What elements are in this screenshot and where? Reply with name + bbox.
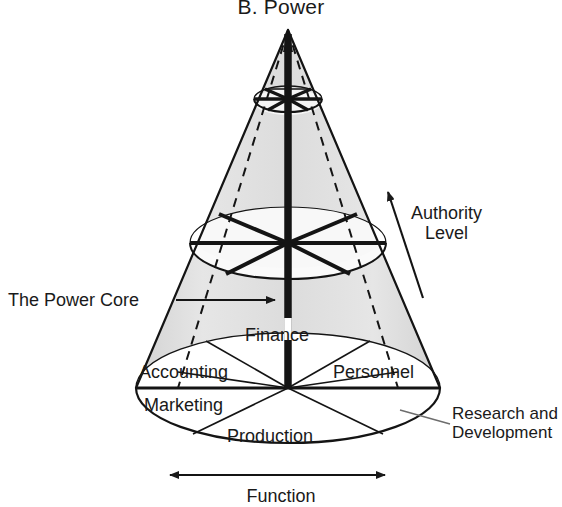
rnd-line-2: Development	[452, 423, 558, 442]
sector-label-personnel: Personnel	[333, 362, 414, 382]
power-cone-figure: B. Power Finance Accounting Personnel Ma…	[0, 0, 562, 507]
sector-label-marketing: Marketing	[144, 395, 223, 415]
figure-title: B. Power	[0, 0, 562, 19]
rnd-line-1: Research and	[452, 404, 558, 423]
sector-label-accounting: Accounting	[139, 362, 228, 382]
authority-line-1: Authority	[411, 203, 482, 223]
authority-line-2: Level	[411, 223, 482, 243]
annotation-function: Function	[0, 486, 562, 506]
sector-label-research-and-development: Research and Development	[452, 404, 558, 442]
sector-label-finance: Finance	[245, 325, 309, 345]
annotation-power-core: The Power Core	[8, 290, 139, 310]
sector-label-production: Production	[227, 426, 313, 446]
annotation-authority-level: Authority Level	[411, 203, 482, 243]
